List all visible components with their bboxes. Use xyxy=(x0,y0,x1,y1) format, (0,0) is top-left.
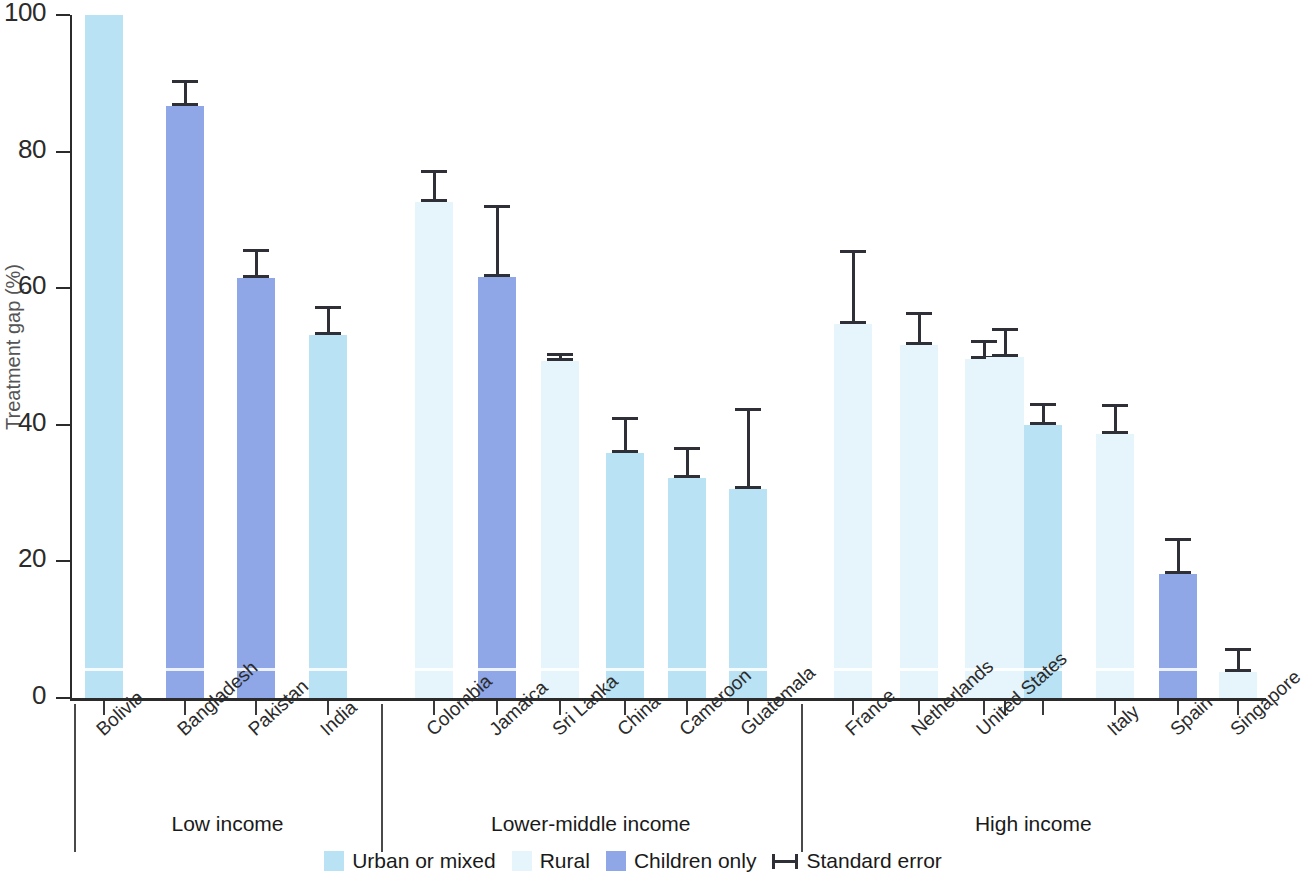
bar xyxy=(237,278,275,698)
legend-color-swatch xyxy=(324,851,344,871)
legend-entry: Children only xyxy=(606,849,757,873)
error-bar-cap-top xyxy=(1225,648,1251,651)
error-bar-cap-top xyxy=(315,306,341,309)
chart-legend: Urban or mixedRuralChildren onlyStandard… xyxy=(0,849,1266,873)
error-bar-cap-top xyxy=(243,249,269,252)
scan-artifact-line xyxy=(900,668,938,671)
legend-entry: Standard error xyxy=(772,849,941,873)
error-bar xyxy=(1102,404,1128,435)
error-bar-cap-bottom xyxy=(484,274,510,277)
scan-artifact-line xyxy=(541,668,579,671)
bar xyxy=(478,277,516,698)
error-bar-cap-top xyxy=(172,80,198,83)
error-bar-stem xyxy=(747,408,750,489)
error-bar xyxy=(421,170,447,202)
error-bar-cap-bottom xyxy=(840,321,866,324)
error-bar-stem xyxy=(624,417,627,454)
error-bar xyxy=(172,80,198,106)
error-bar-stem xyxy=(1114,404,1117,435)
error-bar-stem xyxy=(433,170,436,202)
error-bar-stem xyxy=(496,205,499,277)
error-bar-stem xyxy=(918,312,921,345)
legend-label: Standard error xyxy=(806,849,941,873)
bar xyxy=(986,357,1024,698)
error-bar-stem xyxy=(1004,328,1007,357)
bar xyxy=(1159,574,1197,698)
error-bar-cap-bottom xyxy=(735,486,761,489)
scan-artifact-line xyxy=(478,668,516,671)
scan-artifact-line xyxy=(309,668,347,671)
error-bar xyxy=(547,353,573,361)
scan-artifact-line xyxy=(668,668,706,671)
error-bar xyxy=(243,249,269,278)
error-bar-stem xyxy=(852,250,855,324)
error-bar-cap-bottom xyxy=(674,475,700,478)
x-tick-mark xyxy=(1042,701,1044,715)
scan-artifact-line xyxy=(1159,668,1197,671)
error-bar-cap-top xyxy=(906,312,932,315)
bar xyxy=(668,478,706,698)
bar xyxy=(309,335,347,698)
error-bar-cap-bottom xyxy=(172,103,198,106)
bar xyxy=(729,489,767,698)
error-bar-cap-bottom xyxy=(1102,431,1128,434)
legend-color-swatch xyxy=(512,851,532,871)
error-bar-cap-bottom xyxy=(315,332,341,335)
error-bar-cap-top xyxy=(735,408,761,411)
error-bar xyxy=(674,447,700,478)
scan-artifact-line xyxy=(415,668,453,671)
legend-label: Urban or mixed xyxy=(352,849,496,873)
legend-entry: Urban or mixed xyxy=(324,849,496,873)
error-bar xyxy=(1030,403,1056,425)
error-bar-cap-bottom xyxy=(243,275,269,278)
bar xyxy=(541,361,579,698)
error-bar-stem xyxy=(255,249,258,278)
error-bar-stem xyxy=(686,447,689,478)
scan-artifact-line xyxy=(1096,668,1134,671)
error-bar-cap-top xyxy=(674,447,700,450)
error-bar-cap-bottom xyxy=(992,354,1018,357)
bar xyxy=(85,15,123,698)
bar xyxy=(1219,672,1257,698)
legend-color-swatch xyxy=(606,851,626,871)
income-group-label: High income xyxy=(801,812,1267,836)
error-bar xyxy=(1225,648,1251,672)
bar xyxy=(900,345,938,698)
error-bar-icon xyxy=(772,852,798,870)
error-bar-cap-top xyxy=(547,353,573,356)
error-bar-cap-bottom xyxy=(1165,571,1191,574)
legend-label: Children only xyxy=(634,849,757,873)
error-bar-cap-top xyxy=(421,170,447,173)
error-bar-cap-top xyxy=(992,328,1018,331)
income-group-label: Lower-middle income xyxy=(381,812,801,836)
error-bar-cap-top xyxy=(484,205,510,208)
bar xyxy=(606,453,644,698)
bar xyxy=(166,106,204,698)
scan-artifact-line xyxy=(85,668,123,671)
error-bar-cap-top xyxy=(1165,538,1191,541)
bar xyxy=(415,202,453,698)
error-bar xyxy=(906,312,932,345)
error-bar-cap-bottom xyxy=(906,342,932,345)
error-bar-cap-top xyxy=(840,250,866,253)
bar xyxy=(834,324,872,698)
legend-label: Rural xyxy=(540,849,590,873)
error-bar-cap-bottom xyxy=(421,199,447,202)
error-bar xyxy=(840,250,866,324)
scan-artifact-line xyxy=(834,668,872,671)
error-bar xyxy=(1165,538,1191,574)
x-axis-line xyxy=(70,698,1266,701)
error-bar-cap-top xyxy=(612,417,638,420)
error-bar xyxy=(735,408,761,489)
error-bar-cap-bottom xyxy=(1030,422,1056,425)
scan-artifact-line xyxy=(606,668,644,671)
bar xyxy=(1096,434,1134,698)
error-bar xyxy=(315,306,341,335)
error-bar xyxy=(612,417,638,454)
error-bar-stem xyxy=(1177,538,1180,574)
error-bar-cap-bottom xyxy=(1225,669,1251,672)
error-bar-cap-top xyxy=(1102,404,1128,407)
error-bar-cap-top xyxy=(1030,403,1056,406)
